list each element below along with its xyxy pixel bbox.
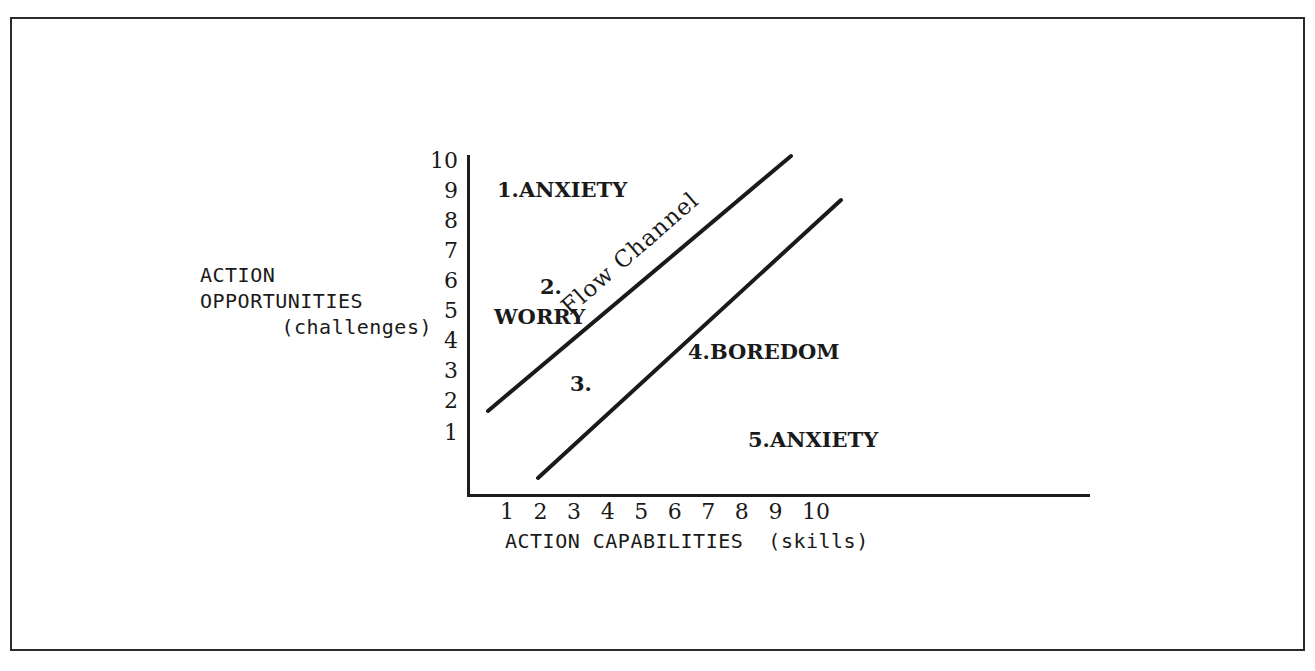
- scanned-page: 10 9 8 7 6 5 4 3 2 1 1 2 3 4 5 6 7 8 9 1…: [0, 0, 1315, 671]
- region-label-flow-channel: Flow Channel: [556, 187, 704, 320]
- x-tick-3: 3: [567, 500, 581, 524]
- flow-boundary-lines: [0, 0, 1315, 671]
- y-tick-9: 9: [398, 180, 458, 202]
- x-tick-4: 4: [601, 500, 615, 524]
- region-label-anxiety-high: 1.ANXIETY: [497, 178, 627, 201]
- x-axis-title: ACTION CAPABILITIES (skills): [505, 529, 869, 553]
- flow-channel-diagram: 10 9 8 7 6 5 4 3 2 1 1 2 3 4 5 6 7 8 9 1…: [0, 0, 1315, 671]
- y-tick-3: 3: [398, 360, 458, 382]
- y-axis-title-line-1: ACTION: [200, 262, 432, 288]
- y-tick-2: 2: [398, 390, 458, 412]
- y-tick-7: 7: [398, 240, 458, 262]
- x-tick-10: 10: [802, 500, 830, 524]
- x-tick-2: 2: [534, 500, 548, 524]
- region-label-boredom: 4.BOREDOM: [688, 340, 840, 363]
- x-tick-1: 1: [500, 500, 514, 524]
- y-tick-8: 8: [398, 210, 458, 232]
- region-label-flow-number: 3.: [570, 372, 592, 395]
- y-axis-title: ACTION OPPORTUNITIES (challenges): [200, 262, 432, 340]
- x-tick-7: 7: [701, 500, 715, 524]
- y-axis-title-line-3: (challenges): [200, 314, 432, 340]
- x-tick-9: 9: [768, 500, 782, 524]
- region-label-worry-number: 2.: [540, 275, 562, 298]
- x-axis-line: [467, 494, 1090, 497]
- y-tick-10: 10: [398, 150, 458, 172]
- y-axis-line: [467, 155, 470, 497]
- x-tick-5: 5: [634, 500, 648, 524]
- x-axis-tick-labels: 1 2 3 4 5 6 7 8 9 10: [500, 500, 830, 524]
- x-tick-6: 6: [668, 500, 682, 524]
- y-tick-1: 1: [398, 422, 458, 444]
- region-label-anxiety-low: 5.ANXIETY: [748, 428, 878, 451]
- y-axis-title-line-2: OPPORTUNITIES: [200, 288, 432, 314]
- x-tick-8: 8: [735, 500, 749, 524]
